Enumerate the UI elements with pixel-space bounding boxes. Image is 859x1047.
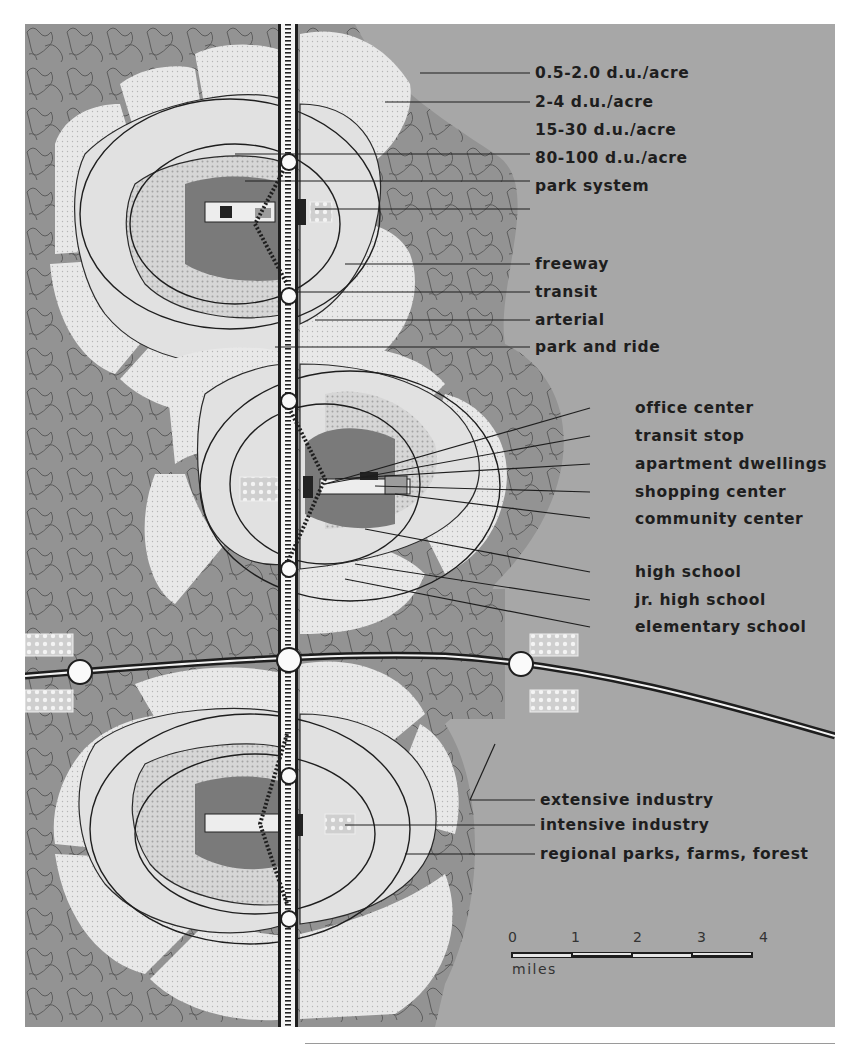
legend-arterial: arterial	[535, 311, 605, 329]
legend-park-system: park system	[535, 177, 649, 195]
page-rule	[305, 1043, 835, 1044]
scale-bar	[511, 952, 753, 958]
scale-unit-label: miles	[512, 961, 557, 977]
legend-high-density: 80-100 d.u./acre	[535, 149, 688, 167]
legend-very-low-density: 0.5-2.0 d.u./acre	[535, 64, 689, 82]
legend-apartment-dwellings: apartment dwellings	[635, 455, 827, 473]
legend-transit-stop: transit stop	[635, 427, 744, 445]
legend-office-center: office center	[635, 399, 754, 417]
legend-community-center: community center	[635, 510, 803, 528]
community-plan-map: 0.5-2.0 d.u./acre 2-4 d.u./acre 15-30 d.…	[25, 24, 835, 1027]
legend-park-and-ride: park and ride	[535, 338, 660, 356]
legend-intensive-industry: intensive industry	[540, 816, 710, 834]
legend-transit: transit	[535, 283, 598, 301]
legend-low-density: 2-4 d.u./acre	[535, 93, 654, 111]
scale-tick-4: 4	[759, 929, 768, 945]
scale-tick-1: 1	[571, 929, 580, 945]
legend-medium-density: 15-30 d.u./acre	[535, 121, 676, 139]
legend-regional-parks: regional parks, farms, forest	[540, 845, 809, 863]
legend-shopping-center: shopping center	[635, 483, 786, 501]
legend-jr-high-school: jr. high school	[635, 591, 766, 609]
legend-high-school: high school	[635, 563, 742, 581]
scale-tick-3: 3	[697, 929, 706, 945]
legend-extensive-industry: extensive industry	[540, 791, 714, 809]
scale-tick-2: 2	[633, 929, 642, 945]
legend-elementary-school: elementary school	[635, 618, 806, 636]
scale-tick-0: 0	[508, 929, 517, 945]
legend-freeway: freeway	[535, 255, 609, 273]
